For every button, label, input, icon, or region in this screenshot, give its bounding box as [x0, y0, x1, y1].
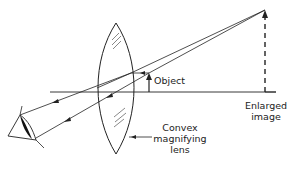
ray-incident-upper	[97, 73, 131, 88]
enlarged-image-label: Enlarged image	[240, 100, 292, 122]
lens-label-line1: Convex	[150, 122, 210, 133]
lens-label-line2: magnifying	[150, 133, 210, 144]
object-label: Object	[154, 75, 185, 86]
enlarged-image-label-line2: image	[240, 111, 292, 122]
lens-label-leader-arrow	[131, 135, 136, 139]
convex-lens	[98, 23, 134, 154]
enlarged-image-label-line1: Enlarged	[240, 100, 292, 111]
virtual-ray-1	[131, 10, 265, 73]
magnifying-lens-diagram: Object Enlarged image Convex magnifying …	[0, 0, 293, 171]
ray-through-center	[36, 73, 149, 138]
lens-glare-bottom	[114, 108, 126, 127]
ray-through-center-arrow-2	[106, 93, 113, 98]
diagram-canvas	[0, 0, 293, 171]
ray-through-center-arrow	[64, 117, 71, 122]
lens-label: Convex magnifying lens	[150, 122, 210, 155]
ray-refracted-1-arrow	[52, 99, 59, 103]
eye-icon	[8, 106, 44, 148]
ray-refracted-1	[20, 73, 131, 115]
ray-horizontal-arrow	[140, 71, 145, 75]
virtual-ray-2	[149, 10, 265, 73]
lens-label-line3: lens	[150, 144, 210, 155]
lens-glare-top	[112, 33, 121, 49]
